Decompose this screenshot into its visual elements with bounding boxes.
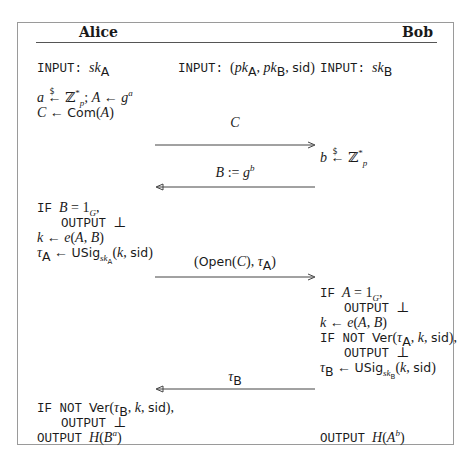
message-4-label: τB <box>150 369 320 385</box>
bob-sign: τB ← USigskB(k, sid) <box>320 360 436 377</box>
input-keyword: INPUT: <box>320 62 365 76</box>
message-3-label: (Open(C), τA) <box>150 254 320 270</box>
header-rule <box>36 42 437 43</box>
alice-setup-1: a ←$ ℤ*p; A ← ga <box>37 90 133 105</box>
if-keyword: IF <box>37 202 52 216</box>
if-not-keyword: IF NOT <box>37 402 82 416</box>
output-keyword: OUTPUT <box>344 302 389 316</box>
alice-sign: τA ← USigskA(k, sid) <box>37 245 153 262</box>
output-keyword: OUTPUT <box>61 417 106 431</box>
bottom-symbol: ⊥ <box>396 345 409 360</box>
output-keyword: OUTPUT <box>61 217 106 231</box>
input-keyword: INPUT: <box>178 62 223 76</box>
bob-final-output: OUTPUT H(Ab) <box>320 430 405 447</box>
input-keyword: INPUT: <box>37 62 82 76</box>
alice-final-output: OUTPUT H(Ba) <box>37 430 122 447</box>
bottom-symbol: ⊥ <box>396 300 409 315</box>
output-keyword: OUTPUT <box>37 432 82 446</box>
message-3-arrow-right <box>155 273 317 281</box>
party-alice-header: Alice <box>79 24 118 40</box>
message-1-label: C <box>150 115 320 131</box>
message-4-arrow-left <box>155 385 317 393</box>
bob-sample: b ←$ ℤ*p <box>320 150 367 165</box>
alice-setup-2: C ← Com(A) <box>37 105 114 120</box>
alice-input: INPUT: skA <box>37 60 109 77</box>
party-bob-header: Bob <box>402 24 433 40</box>
bob-input: INPUT: skB <box>320 60 392 77</box>
message-1-arrow-right <box>155 141 317 149</box>
common-input: INPUT: (pkA, pkB, sid) <box>178 60 315 77</box>
bottom-symbol: ⊥ <box>113 215 126 230</box>
message-2-label: B := gb <box>150 165 320 181</box>
output-keyword: OUTPUT <box>344 347 389 361</box>
alice-key: k ← e(A, B) <box>37 230 104 245</box>
if-not-keyword: IF NOT <box>320 332 365 346</box>
message-2-arrow-left <box>155 183 317 191</box>
if-keyword: IF <box>320 287 335 301</box>
output-keyword: OUTPUT <box>320 432 365 446</box>
bob-key: k ← e(A, B) <box>320 315 387 330</box>
